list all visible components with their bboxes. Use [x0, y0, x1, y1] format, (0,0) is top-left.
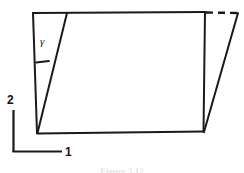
figure-container: γ 2 1 Figure 3.12 — [0, 0, 244, 173]
shear-diagram-svg — [0, 0, 244, 173]
element-outline-group — [33, 12, 206, 134]
top-edge-line — [33, 12, 206, 13]
left-edge-line — [33, 13, 37, 133]
angle-tick-mark — [36, 61, 49, 63]
bottom-edge-line — [37, 132, 204, 134]
dashed-top-extension-line — [206, 13, 238, 14]
deformed-right-edge-line — [204, 13, 238, 132]
shear-angle-gamma-label: γ — [40, 36, 44, 47]
figure-caption: Figure 3.12 — [0, 165, 244, 173]
shear-angle-line — [38, 13, 68, 133]
right-edge-line — [204, 12, 206, 132]
axis-label-1: 1 — [65, 146, 72, 158]
axis-label-2: 2 — [7, 94, 14, 106]
